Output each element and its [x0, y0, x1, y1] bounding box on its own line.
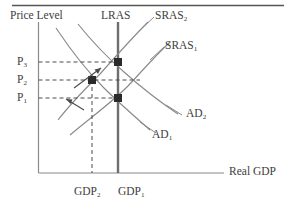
- sras1-label-sub: 1: [194, 45, 198, 53]
- y-tick-p2-sub: 2: [23, 79, 27, 87]
- y-tick-p3: P3: [17, 56, 27, 68]
- x-tick-gdp2: GDP2: [74, 186, 101, 198]
- ad1-label-text: AD: [152, 128, 169, 140]
- x-tick-gdp2-sub: 2: [97, 191, 101, 199]
- sras2-label: SRAS2: [155, 10, 187, 22]
- lras-label: LRAS: [101, 10, 130, 22]
- as-ad-diagram: Price Level Real GDP LRAS SRAS2 SRAS1 AD…: [0, 0, 296, 207]
- sras2-leader: [140, 17, 154, 30]
- x-tick-gdp2-text: GDP: [74, 185, 97, 197]
- sras2-label-text: SRAS: [155, 9, 184, 21]
- y-axis-title: Price Level: [10, 10, 63, 22]
- y-tick-p1: P1: [17, 92, 27, 104]
- ad2-label-sub: 2: [203, 113, 207, 121]
- equilibrium-point-initial: [114, 94, 122, 102]
- sras1-label: SRAS1: [165, 40, 197, 52]
- x-tick-gdp1: GDP1: [118, 186, 145, 198]
- sras2-label-sub: 2: [184, 15, 188, 23]
- ad2-leader: [166, 105, 182, 115]
- sras1-label-text: SRAS: [165, 39, 194, 51]
- equilibrium-point-long-run: [114, 58, 122, 66]
- ad1-label: AD1: [152, 129, 172, 141]
- y-tick-p2: P2: [17, 74, 27, 86]
- x-tick-gdp1-text: GDP: [118, 185, 141, 197]
- x-tick-gdp1-sub: 1: [141, 191, 145, 199]
- ad2-label-text: AD: [186, 107, 203, 119]
- ad1-label-sub: 1: [169, 134, 173, 142]
- y-tick-p1-sub: 1: [23, 97, 27, 105]
- ad2-label: AD2: [186, 108, 206, 120]
- sras-shift-arrow: [74, 68, 101, 88]
- ad1-curve: [56, 28, 150, 130]
- sras2-curve: [58, 22, 148, 120]
- y-tick-p3-sub: 3: [23, 61, 27, 69]
- ad2-curve: [78, 24, 178, 114]
- sras1-leader: [150, 47, 164, 60]
- x-axis-title: Real GDP: [229, 166, 276, 178]
